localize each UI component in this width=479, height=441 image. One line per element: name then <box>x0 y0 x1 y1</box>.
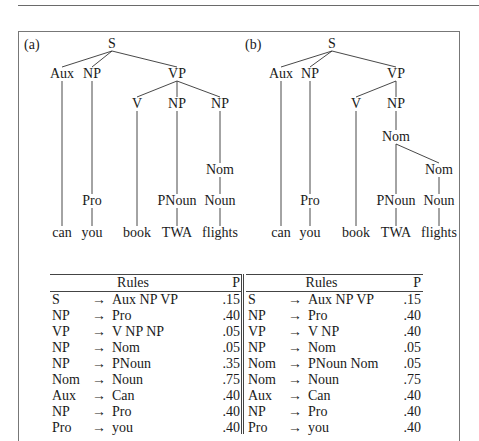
rule-prob: .05 <box>397 340 423 356</box>
tree-b-node-VP: VP <box>387 67 405 81</box>
tree-a-label: (a) <box>24 38 40 52</box>
rule-rhs: Can <box>308 388 397 404</box>
rule-rhs: Nom <box>112 340 216 356</box>
rule-prob: .40 <box>397 324 423 340</box>
rule-rhs: you <box>112 420 216 436</box>
table-row: S→Aux NP VP.15 <box>246 292 423 309</box>
rule-prob: .40 <box>216 420 242 436</box>
rule-lhs: Nom <box>246 372 288 388</box>
table-row: Nom→Noun.75 <box>50 372 242 388</box>
table-row: NP→Nom.05 <box>246 340 423 356</box>
tree-b-word: TWA <box>381 226 411 240</box>
tree-b-node-NP: NP <box>387 97 405 111</box>
tree-a-node-V: V <box>132 97 142 111</box>
rules-header: Rules <box>50 275 216 292</box>
tree-a-word: TWA <box>162 226 192 240</box>
table-row: Aux→Can.40 <box>50 388 242 404</box>
rule-prob: .05 <box>216 324 242 340</box>
rule-prob: .40 <box>216 308 242 324</box>
rule-prob: .75 <box>216 372 242 388</box>
tree-b-label: (b) <box>245 38 261 52</box>
rules-header: Rules <box>246 275 397 292</box>
rule-lhs: NP <box>246 308 288 324</box>
table-row: NP→Pro.40 <box>246 308 423 324</box>
tree-b-word: flights <box>421 226 457 240</box>
rule-prob: .40 <box>397 388 423 404</box>
prob-header: P <box>397 275 423 292</box>
tree-b-node-Aux: Aux <box>269 67 293 81</box>
rule-rhs: Noun <box>112 372 216 388</box>
arrow-icon: → <box>92 340 112 356</box>
arrow-icon: → <box>92 356 112 372</box>
tree-b-node-NP: NP <box>301 67 319 81</box>
rule-prob: .35 <box>216 356 242 372</box>
arrow-icon: → <box>92 372 112 388</box>
tree-edges <box>0 0 479 250</box>
tree-a-node-NP: NP <box>83 67 101 81</box>
table-row: VP→V NP NP.05 <box>50 324 242 340</box>
table-row: Aux→Can.40 <box>246 388 423 404</box>
rule-rhs: you <box>308 420 397 436</box>
tree-b-word: can <box>271 226 290 240</box>
tree-a-node-NP: NP <box>211 97 229 111</box>
tree-b-node-V: V <box>351 97 361 111</box>
rule-lhs: NP <box>50 308 92 324</box>
rule-rhs: V NP NP <box>112 324 216 340</box>
rule-prob: .15 <box>397 292 423 309</box>
rule-prob: .40 <box>397 404 423 420</box>
tree-a-node-VP: VP <box>168 67 186 81</box>
table-row: NP→Pro.40 <box>246 404 423 420</box>
arrow-icon: → <box>288 420 308 436</box>
table-row: Nom→Noun.75 <box>246 372 423 388</box>
arrow-icon: → <box>92 292 112 309</box>
rule-rhs: Pro <box>112 404 216 420</box>
rule-lhs: Aux <box>246 388 288 404</box>
rule-prob: .40 <box>216 388 242 404</box>
table-row: NP→Pro.40 <box>50 308 242 324</box>
rule-rhs: Aux NP VP <box>112 292 216 309</box>
tree-b-node-Nom: Nom <box>425 163 453 177</box>
rules-table-b: Rules P S→Aux NP VP.15 NP→Pro.40 VP→V NP… <box>246 274 423 436</box>
rule-lhs: Nom <box>246 356 288 372</box>
tree-a-node-Pro: Pro <box>82 194 101 208</box>
tree-a-node-S: S <box>108 37 116 51</box>
arrow-icon: → <box>92 404 112 420</box>
rule-rhs: Pro <box>308 308 397 324</box>
rule-lhs: NP <box>50 340 92 356</box>
tree-a-word: you <box>82 226 103 240</box>
rule-rhs: PNoun Nom <box>308 356 397 372</box>
tree-b-node-Nom: Nom <box>382 130 410 144</box>
arrow-icon: → <box>288 308 308 324</box>
rule-rhs: Aux NP VP <box>308 292 397 309</box>
rule-lhs: Aux <box>50 388 92 404</box>
tree-b-word: book <box>342 226 370 240</box>
tree-a-node-Noun: Noun <box>204 194 235 208</box>
rule-lhs: VP <box>50 324 92 340</box>
rule-rhs: PNoun <box>112 356 216 372</box>
arrow-icon: → <box>92 388 112 404</box>
tree-a-word: flights <box>202 226 238 240</box>
rule-prob: .40 <box>216 404 242 420</box>
rule-prob: .05 <box>216 340 242 356</box>
table-header-row: Rules P <box>246 275 423 292</box>
table-row: Nom→PNoun Nom.05 <box>246 356 423 372</box>
rule-prob: .15 <box>216 292 242 309</box>
arrow-icon: → <box>288 372 308 388</box>
rule-lhs: Pro <box>246 420 288 436</box>
tree-b-node-Noun: Noun <box>423 194 454 208</box>
tree-a-word: can <box>52 226 71 240</box>
arrow-icon: → <box>288 324 308 340</box>
arrow-icon: → <box>92 420 112 436</box>
tree-a-node-NP: NP <box>168 97 186 111</box>
arrow-icon: → <box>288 356 308 372</box>
tree-a-node-PNoun: PNoun <box>158 194 197 208</box>
arrow-icon: → <box>288 388 308 404</box>
tree-a-word: book <box>123 226 151 240</box>
table-row: NP→PNoun.35 <box>50 356 242 372</box>
parse-trees: (a) S Aux NP VP V NP NP Nom Pro PNoun No… <box>0 0 479 250</box>
prob-header: P <box>216 275 242 292</box>
table-row: VP→V NP.40 <box>246 324 423 340</box>
tree-b-node-PNoun: PNoun <box>377 194 416 208</box>
table-row: NP→Nom.05 <box>50 340 242 356</box>
table-row: NP→Pro.40 <box>50 404 242 420</box>
